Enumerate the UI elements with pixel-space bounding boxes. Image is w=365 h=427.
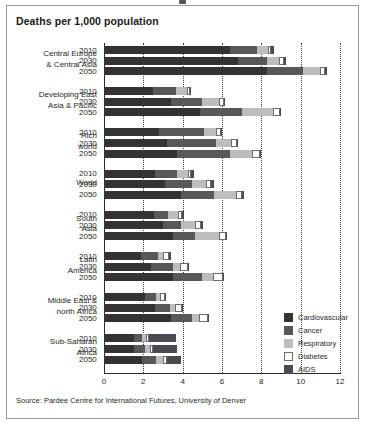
stacked-bar [104,304,182,312]
legend-swatch-respiratory [284,339,293,348]
x-tick-label: 4 [180,377,184,386]
bar-segment-aids [260,150,261,158]
bar-segment-respiratory [214,191,236,199]
bar-segment-aids [226,232,227,240]
bar-segment-respiratory [156,356,163,364]
stacked-bar [104,150,261,158]
bar-segment-diabetes [175,304,182,312]
legend-item-diabetes: Diabetes [284,350,348,363]
x-tick-label: 2 [141,377,145,386]
stacked-bar [104,221,203,229]
legend-label: AIDS [298,365,316,374]
bar-segment-aids [201,221,203,229]
bar-segment-cardiovascular [104,46,230,54]
stacked-bar [104,46,274,54]
region-label-line: Asia [5,224,97,235]
region-label-line: Sub-Saharan [5,337,97,348]
legend-swatch-aids [284,365,293,374]
stacked-bar [104,180,214,188]
bar-segment-respiratory [216,139,231,147]
bar-segment-cancer [155,304,170,312]
bar-segment-aids [165,293,166,301]
region-label: LatinAmerica [5,255,97,276]
bar-segment-respiratory [173,263,180,271]
bar-segment-respiratory [202,273,213,281]
gridline-6 [222,43,223,373]
bar-segment-aids [242,191,244,199]
bar-segment-respiratory [257,46,268,54]
bar-segment-cardiovascular [104,263,151,271]
bar-segment-aids [182,304,183,312]
bar-segment-cancer [167,139,216,147]
stacked-bar [104,293,166,301]
bar-segment-aids [182,211,184,219]
bar-segment-aids [190,87,191,95]
bar-segment-aids [223,273,224,281]
bar-segment-cancer [163,221,181,229]
bar-segment-cancer [159,128,204,136]
bar-segment-cardiovascular [104,232,173,240]
legend-item-aids: AIDS [284,363,348,376]
bar-segment-cardiovascular [104,128,159,136]
bar-segment-cardiovascular [104,170,155,178]
gridline-8 [261,43,262,373]
bar-segment-cancer [165,180,193,188]
stacked-bar [104,273,224,281]
year-label: 2050 [79,191,101,199]
region-label: Developing EastAsia & Pacific [5,90,97,111]
bar-segment-cardiovascular [104,304,155,312]
region-label-line: north Africa [5,307,97,318]
bar-segment-cardiovascular [104,98,171,106]
bar-segment-cardiovascular [104,356,142,364]
stacked-bar [104,232,227,240]
region-label-line: Central Europe [5,49,97,60]
region-label-line: Latin [5,255,97,266]
bar-segment-respiratory [204,128,216,136]
bar-segment-cardiovascular [104,273,173,281]
legend-label: Cancer [298,326,322,335]
bar-segment-cancer [230,46,258,54]
region-label-line: America [5,266,97,277]
stacked-bar [104,57,286,65]
legend-swatch-cancer [284,326,293,335]
x-tick-label: 12 [336,377,345,386]
bar-segment-respiratory [230,150,253,158]
region-label: World [5,178,97,189]
stacked-bar [104,252,171,260]
bar-segment-cancer [267,67,302,75]
region-label-line: world [5,142,97,153]
source-note: Source: Pardee Centre for International … [16,396,246,405]
legend-swatch-diabetes [284,352,293,361]
bar-segment-cardiovascular [104,150,177,158]
chart-title: Deaths per 1,000 population [16,15,159,27]
stacked-bar [104,98,225,106]
bar-segment-cardiovascular [104,108,200,116]
chart-legend: CardiovascularCancerRespiratoryDiabetesA… [284,311,348,376]
bar-segment-aids [284,57,286,65]
bar-segment-diabetes [213,273,223,281]
stacked-bar [104,108,281,116]
bar-segment-respiratory [192,180,206,188]
region-label-line: South [5,214,97,225]
bar-segment-diabetes [199,314,208,322]
bar-segment-cardiovascular [104,57,238,65]
bar-segment-cardiovascular [104,221,163,229]
bar-segment-cardiovascular [104,191,181,199]
region-label: Central Europe& Central Asia [5,49,97,70]
bar-segment-aids [237,139,238,147]
bar-segment-aids [208,314,209,322]
stacked-bar [104,334,176,342]
bar-segment-cardiovascular [104,180,165,188]
bar-segment-aids [167,356,181,364]
legend-swatch-cardiovascular [284,313,293,322]
legend-label: Respiratory [298,339,336,348]
bar-segment-respiratory [303,67,321,75]
bar-segment-diabetes [219,232,226,240]
bar-segment-respiratory [267,57,279,65]
bar-segment-cancer [141,252,158,260]
stacked-bar [104,170,194,178]
bar-segment-diabetes [252,150,260,158]
stacked-bar [104,345,177,353]
bar-segment-cancer [171,314,192,322]
bar-segment-aids [153,345,177,353]
